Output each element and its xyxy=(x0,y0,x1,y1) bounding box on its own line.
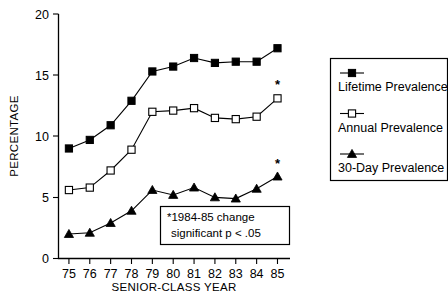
x-tick-label: 80 xyxy=(166,267,180,281)
y-axis-tick-labels: 0 5 10 15 20 xyxy=(35,8,49,266)
data-marker-open-square xyxy=(149,108,156,115)
legend-item-label: Lifetime Prevalence xyxy=(338,80,448,94)
data-marker-open-square xyxy=(253,113,260,120)
data-marker-filled-triangle xyxy=(210,193,219,201)
x-tick-label: 76 xyxy=(83,267,97,281)
x-tick-label: 85 xyxy=(271,267,285,281)
x-tick-label: 81 xyxy=(187,267,201,281)
data-marker-filled-triangle xyxy=(189,183,198,191)
data-marker-open-square xyxy=(107,167,114,174)
chart-figure: 0 5 10 15 20 PERCENTAGE 7576777879808182… xyxy=(0,0,448,295)
series-1 xyxy=(65,45,281,152)
series-2 xyxy=(65,95,281,194)
data-marker-filled-triangle xyxy=(273,172,282,180)
data-marker-filled-triangle xyxy=(252,184,261,192)
data-marker-open-square xyxy=(170,107,177,114)
x-axis-ticks xyxy=(69,259,278,265)
data-marker-open-square xyxy=(128,146,135,153)
legend-item-label: Annual Prevalence xyxy=(338,121,443,135)
data-marker-filled-square xyxy=(190,54,197,61)
data-marker-open-square xyxy=(348,110,355,117)
legend: Lifetime PrevalenceAnnual Prevalence30-D… xyxy=(331,59,448,181)
significance-stars: ** xyxy=(275,77,281,170)
y-tick-label: 5 xyxy=(42,191,49,205)
x-tick-label: 79 xyxy=(145,267,159,281)
y-tick-label: 20 xyxy=(35,8,49,22)
y-tick-label: 0 xyxy=(42,252,49,266)
significance-note-box: *1984-85 change significant p < .05 xyxy=(161,207,290,245)
annotation-line-2: significant p < .05 xyxy=(171,227,261,239)
star-30day-85: * xyxy=(275,156,281,171)
data-marker-open-square xyxy=(274,95,281,102)
data-marker-filled-square xyxy=(65,145,72,152)
data-marker-filled-square xyxy=(149,68,156,75)
y-tick-label: 15 xyxy=(35,69,49,83)
data-marker-filled-square xyxy=(170,63,177,70)
data-marker-open-square xyxy=(190,105,197,112)
data-marker-filled-triangle xyxy=(106,218,115,226)
data-marker-filled-square xyxy=(128,97,135,104)
x-tick-label: 82 xyxy=(208,267,222,281)
annotation-line-1: *1984-85 change xyxy=(167,211,255,223)
legend-item-label: 30-Day Prevalence xyxy=(338,161,444,175)
x-axis-title: SENIOR-CLASS YEAR xyxy=(111,281,236,293)
data-marker-open-square xyxy=(211,114,218,121)
x-tick-label: 75 xyxy=(62,267,76,281)
x-tick-label: 83 xyxy=(229,267,243,281)
x-tick-label: 78 xyxy=(125,267,139,281)
star-annual-85: * xyxy=(275,77,281,92)
data-marker-filled-square xyxy=(232,58,239,65)
x-tick-label: 84 xyxy=(250,267,264,281)
y-axis-title: PERCENTAGE xyxy=(8,95,20,176)
data-marker-filled-square xyxy=(107,122,114,129)
x-tick-label: 77 xyxy=(104,267,118,281)
y-axis-ticks xyxy=(53,14,59,259)
data-marker-open-square xyxy=(65,186,72,193)
x-axis-tick-labels: 7576777879808182838485 xyxy=(62,267,285,281)
data-marker-filled-square xyxy=(253,58,260,65)
data-marker-filled-square xyxy=(86,136,93,143)
data-marker-filled-triangle xyxy=(148,185,157,193)
data-marker-filled-square xyxy=(211,59,218,66)
y-tick-label: 10 xyxy=(35,130,49,144)
data-marker-filled-square xyxy=(348,69,355,76)
data-marker-filled-triangle xyxy=(85,228,94,236)
line-chart: 0 5 10 15 20 PERCENTAGE 7576777879808182… xyxy=(0,0,448,295)
data-marker-filled-square xyxy=(274,45,281,52)
data-marker-open-square xyxy=(86,184,93,191)
data-marker-open-square xyxy=(232,116,239,123)
